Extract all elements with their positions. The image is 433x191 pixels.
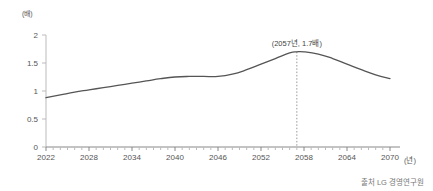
line-chart: (배) 00.511.52 (년) 출처 LG 경영연구원 2022202820… bbox=[0, 0, 433, 191]
x-axis-tick-label: 2070 bbox=[381, 153, 399, 162]
x-axis-tick-label: 2064 bbox=[338, 153, 356, 162]
plot-area bbox=[0, 0, 433, 191]
x-axis-tick-label: 2022 bbox=[37, 153, 55, 162]
axis-lines bbox=[46, 35, 400, 147]
x-axis-tick-label: 2034 bbox=[123, 153, 141, 162]
x-axis-tick-label: 2040 bbox=[166, 153, 184, 162]
x-axis-tick-label: 2046 bbox=[209, 153, 227, 162]
x-axis-unit-label: (년) bbox=[404, 154, 416, 165]
y-axis-tick-marks bbox=[42, 35, 46, 147]
x-axis-tick-label: 2028 bbox=[80, 153, 98, 162]
x-axis-tick-label: 2058 bbox=[295, 153, 313, 162]
peak-annotation-label: (2057년, 1.7배) bbox=[272, 37, 322, 48]
x-axis-tick-label: 2052 bbox=[252, 153, 270, 162]
series-line-batyul bbox=[46, 52, 390, 98]
x-axis-tick-marks bbox=[46, 147, 390, 151]
source-note: 출처 LG 경영연구원 bbox=[361, 176, 424, 187]
